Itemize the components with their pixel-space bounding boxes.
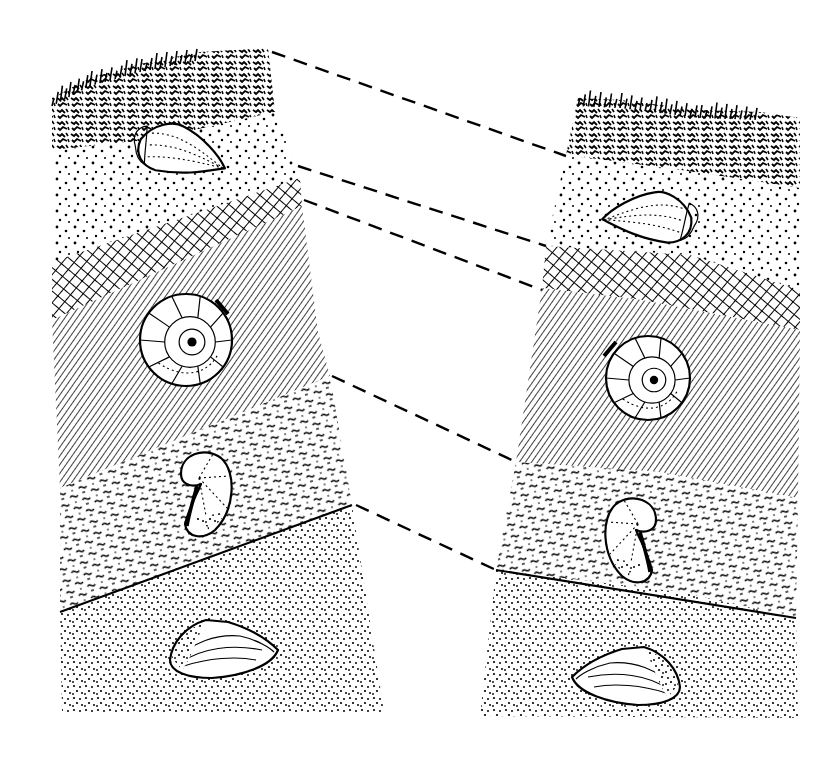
correlation-crosshatch-base-dashed-line — [304, 200, 542, 290]
diagram-canvas — [0, 0, 836, 766]
right-ammonite-fossil-icon — [604, 336, 690, 420]
correlation-top-soil-dashed-line — [272, 52, 566, 156]
correlation-sand-base-dashed-line — [298, 166, 546, 246]
stratigraphic-correlation-diagram: Stratigraphic correlation of rock layers… — [0, 0, 836, 766]
correlation-wavy-base-dashed-line — [356, 505, 496, 570]
correlation-shale-base-dashed-line — [332, 376, 516, 462]
left-ammonite-fossil-icon — [140, 294, 232, 386]
left-rock-column — [52, 48, 384, 712]
